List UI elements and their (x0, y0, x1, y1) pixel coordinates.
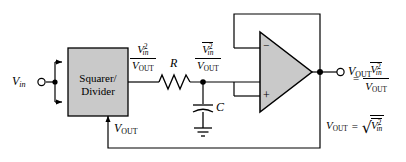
filter-output-numerator: V2in (195, 42, 221, 59)
squarer-output-expression: V2in VOUT (130, 44, 156, 72)
schematic-vector-layer (0, 0, 406, 162)
squarer-divider-line1: Squarer/ (79, 72, 116, 84)
vin-subscript: in (19, 80, 25, 89)
ground-symbol (194, 128, 212, 136)
filter-output-expression: V2in VOUT (195, 42, 221, 72)
eq2-lhs: VOUT (326, 119, 348, 133)
circuit-diagram: Squarer/ Divider Vin V2in VOUT R C V2in (0, 0, 406, 162)
vout-feedback-label: VOUT (114, 122, 138, 136)
squarer-divider-label: Squarer/ Divider (68, 72, 128, 98)
eq1-denominator: VOUT (363, 79, 389, 94)
eq2-operator: = (352, 120, 358, 132)
capacitor-C (193, 105, 213, 128)
squarer-output-numerator: V2in (130, 44, 156, 59)
eq1-numerator: V2in (363, 62, 389, 79)
eq2-radical: √V2in (362, 115, 384, 137)
vin-label: Vin (12, 75, 26, 89)
junction-dot-filter (200, 79, 206, 85)
resistor-R (159, 75, 190, 89)
junction-dot-vin (52, 79, 57, 84)
squarer-divider-line2: Divider (81, 85, 115, 97)
equation-vout-rms: VOUT = √V2in (326, 115, 384, 137)
resistor-label: R (170, 57, 177, 69)
opamp-noninverting-sign: + (263, 89, 270, 101)
opamp-inverting-sign: − (263, 40, 269, 51)
squarer-output-denominator: VOUT (130, 59, 156, 73)
eq1-operator: = (353, 72, 359, 84)
opamp-input-leads (234, 48, 260, 96)
vin-terminal-circle (38, 78, 45, 85)
filter-node-wiring (190, 82, 260, 104)
capacitor-label: C (216, 101, 224, 113)
vout-terminal-circle (337, 68, 344, 75)
equation-vout-implicit: = V2in VOUT (353, 62, 389, 93)
filter-output-denominator: VOUT (195, 59, 221, 73)
